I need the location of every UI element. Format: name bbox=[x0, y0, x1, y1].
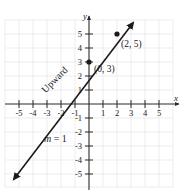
x-tick-label: -3 bbox=[43, 108, 50, 118]
graph-figure: -5 -4 -3 -2 -1 1 2 3 4 5 5 4 3 2 1 -1 -2… bbox=[0, 0, 189, 195]
y-tick-label: -4 bbox=[75, 155, 83, 165]
data-point-label-y-intercept: (0, 3) bbox=[94, 64, 115, 75]
data-point-label-second: (2, 5) bbox=[121, 39, 142, 50]
y-axis-label: y bbox=[82, 11, 87, 21]
y-tick-label: 5 bbox=[78, 29, 82, 39]
y-tick-label: 2 bbox=[78, 71, 82, 81]
figure-background bbox=[0, 0, 189, 195]
data-point-second bbox=[114, 31, 119, 36]
y-tick-label: -2 bbox=[75, 127, 82, 137]
y-tick-label: -1 bbox=[75, 113, 82, 123]
slope-annotation: m = 1 bbox=[44, 133, 67, 144]
x-tick-label: 1 bbox=[101, 108, 105, 118]
x-axis-label: x bbox=[173, 93, 178, 103]
x-tick-label: -4 bbox=[29, 108, 37, 118]
y-tick-label: -5 bbox=[75, 169, 82, 179]
coordinate-plane: -5 -4 -3 -2 -1 1 2 3 4 5 5 4 3 2 1 -1 -2… bbox=[0, 0, 189, 195]
x-tick-label: 2 bbox=[115, 108, 119, 118]
slope-value: = 1 bbox=[51, 133, 67, 144]
x-tick-label: 3 bbox=[129, 108, 133, 118]
slope-symbol: m bbox=[44, 133, 51, 144]
data-point-y-intercept bbox=[86, 59, 91, 64]
x-tick-label: -5 bbox=[15, 108, 22, 118]
y-tick-label: 3 bbox=[78, 57, 82, 67]
x-tick-label: 5 bbox=[157, 108, 161, 118]
y-tick-label: -3 bbox=[75, 141, 82, 151]
